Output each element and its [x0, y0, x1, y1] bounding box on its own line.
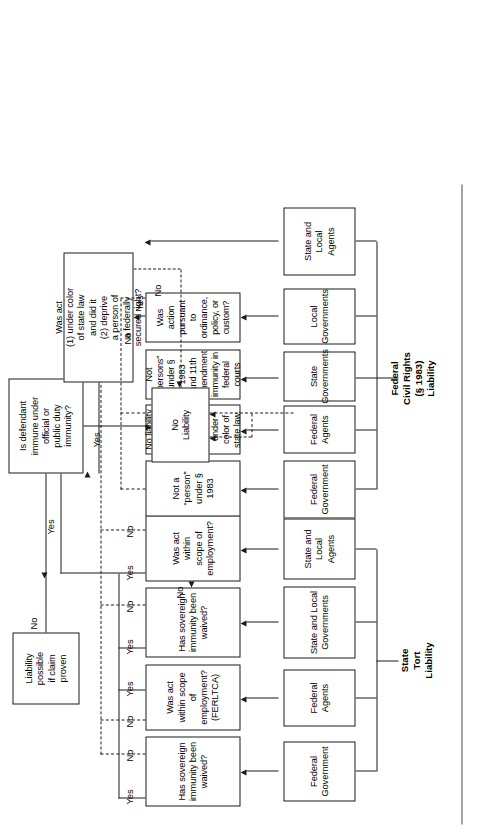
defendant-box-state-local-governments-tort[interactable]: State and Local Governments [283, 586, 355, 658]
edge-label-q1-yes: Yes [125, 789, 134, 804]
arrowhead-c1-r1 [240, 487, 246, 493]
edge-liability-stub [45, 573, 46, 632]
edge-c3-r3 [246, 377, 278, 378]
defendant-box-federal-agents-tort[interactable]: Federal Agents [283, 669, 355, 726]
result-box-r1-not-a-person[interactable]: Not a “person” under § 1983 [145, 460, 240, 516]
edge-color-of-law-no-horizontal [180, 269, 181, 387]
edge-label-q1-no: No [125, 749, 134, 761]
defendant-box-state-local-agents-cr[interactable]: State and Local Agents [283, 207, 355, 275]
question-box-q2-scope-of-employment-ferltca[interactable]: Was act within scope of employment? (FER… [145, 664, 240, 730]
edge-r4-yes [139, 315, 145, 316]
edge-q2-yes [118, 689, 145, 690]
question-box-r4-ordinance-policy-custom[interactable]: Was action pursuant to ordinance, policy… [145, 292, 240, 342]
category-branch-c4 [355, 315, 376, 316]
decision-box-official-public-duty-immunity[interactable]: Is defendant immune under official or pu… [8, 378, 83, 473]
edge-label-q3-yes: Yes [125, 639, 134, 654]
edge-color-of-law-no-vertical [133, 268, 180, 269]
category-branch-c3 [355, 377, 376, 378]
edge-r4-no-riser [120, 297, 145, 298]
edge-immunity-to-liability-possible [45, 473, 46, 573]
defendant-box-federal-government-tort[interactable]: Federal Government [283, 741, 355, 801]
edge-r3-no-drop [120, 412, 145, 413]
defendant-label: State and Local Governments [308, 590, 331, 653]
edge-c5-color-of-law [150, 240, 278, 241]
arrowhead-immunity-yes [145, 424, 151, 430]
arrowhead-d1-q1 [240, 769, 246, 775]
defendant-box-local-governments-cr[interactable]: Local Governments [283, 288, 355, 344]
defendant-box-federal-agents-cr[interactable]: Federal Agents [283, 405, 355, 453]
category-branch-c1 [355, 488, 376, 489]
edge-label-q2-yes: Yes [125, 681, 134, 696]
question-box-q3-sovereign-immunity-waived-state[interactable]: Has sovereign immunity been waived? [145, 587, 240, 657]
arrowhead-no-liability-a [209, 435, 215, 441]
category-stem-state-tort [376, 660, 398, 661]
category-branch-d4 [355, 548, 376, 549]
question-label: Was act within scope of employment? (FER… [164, 668, 221, 726]
category-branch-d3 [355, 621, 376, 622]
edge-label-immunity-yes: Yes [92, 432, 101, 447]
defendant-label: Federal Agents [308, 682, 331, 713]
edge-label-q4-no: No [125, 525, 134, 537]
edge-q3-yes [118, 647, 145, 648]
arrowhead-merge-into-immunity [84, 471, 90, 477]
arrowhead-no-liability-b [209, 411, 215, 417]
flowchart-page: State Tort Liability Federal Civil Right… [0, 0, 481, 834]
edge-q1-no [100, 753, 145, 754]
arrowhead-r4-yes [133, 314, 139, 320]
question-box-q1-sovereign-immunity-waived-federal[interactable]: Has sovereign immunity been waived? [145, 736, 240, 806]
defendant-label: Federal Agents [308, 414, 331, 445]
defendant-box-federal-government-cr[interactable]: Federal Government [283, 460, 355, 518]
edge-label-immunity-no: No [29, 617, 38, 629]
defendant-label: Federal Government [308, 464, 331, 514]
edge-q4-no [100, 529, 145, 530]
arrowhead-d2-q2 [240, 696, 246, 702]
edge-q1-yes [118, 797, 145, 798]
edge-label-merge-yes: Yes [46, 519, 55, 534]
category-branch-d2 [355, 697, 376, 698]
outcome-label: No Liability [169, 409, 192, 439]
no-bus-stub [251, 413, 252, 437]
result-label: Not a “person” under § 1983 [170, 464, 215, 512]
edge-d4-q4 [246, 548, 278, 549]
bottom-divider [461, 184, 462, 824]
edge-label-q2-no: No [125, 715, 134, 727]
edge-q3-no [100, 604, 145, 605]
edge-d3-q3 [246, 621, 278, 622]
arrowhead-color-of-law-no [176, 381, 182, 387]
defendant-box-state-local-agents-tort[interactable]: State and Local Agents [283, 518, 355, 579]
defendant-label: Federal Government [308, 746, 331, 796]
question-label: Was act within scope of employment? [170, 519, 215, 577]
edge-label-r4-no: No [123, 332, 132, 344]
edge-c4-r4 [246, 315, 278, 316]
arrowhead-c5-color-of-law [144, 239, 150, 245]
arrowhead-c4-r4 [240, 314, 246, 320]
edge-d1-q1 [246, 770, 278, 771]
outcome-box-no-liability[interactable]: No Liability [151, 387, 209, 462]
edge-q4-yes [118, 572, 145, 573]
defendant-label: State and Local Agents [302, 211, 336, 271]
question-box-q4-scope-of-employment-state[interactable]: Was act within scope of employment? [145, 515, 240, 581]
decision-box-color-of-state-law[interactable]: Was act (1) under color of state law and… [63, 252, 133, 382]
yes-bus-to-immunity [60, 473, 61, 573]
category-bus-state-tort [376, 549, 377, 771]
category-branch-c5 [355, 240, 376, 241]
defendant-label: State Governments [308, 349, 331, 404]
edge-immunity-yes [83, 425, 145, 426]
edge-r1-no-drop [120, 488, 145, 489]
arrowhead-d3-q3 [240, 620, 246, 626]
outcome-box-liability-possible[interactable]: Liability possible if claim proven [12, 632, 79, 704]
arrowhead-q4-to-q3 [188, 581, 194, 587]
category-bus-civil-rights [376, 241, 377, 489]
edge-q2-no [100, 719, 145, 720]
yes-bus-state-tort [118, 573, 119, 798]
arrowhead-d4-q4 [240, 547, 246, 553]
result-label: Was action pursuant to ordinance, policy… [154, 296, 232, 338]
yes-bus-riser [60, 572, 118, 573]
edge-bus-to-color-of-law [98, 382, 99, 473]
category-label-state-tort: State Tort Liability [398, 612, 434, 708]
edge-c1-r1 [246, 488, 278, 489]
category-stem-civil-rights [376, 377, 398, 378]
defendant-label: Local Governments [308, 289, 331, 344]
defendant-box-state-governments-cr[interactable]: State Governments [283, 351, 355, 401]
outcome-label: Liability possible if claim proven [23, 651, 68, 684]
